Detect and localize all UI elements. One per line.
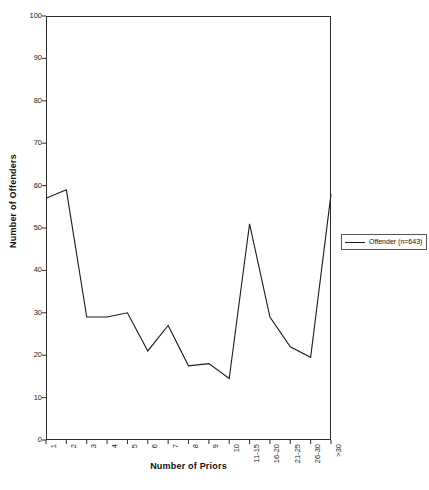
y-tick-label: 30 — [16, 309, 42, 317]
x-tick-label: 2 — [70, 444, 78, 448]
y-tick-label: 20 — [16, 351, 42, 359]
chart-legend: Offender (n=643) — [341, 234, 427, 250]
x-axis-title: Number of Priors — [46, 461, 331, 471]
data-series-line-offender — [46, 190, 331, 379]
y-axis-ticks — [42, 16, 46, 440]
x-tick-label: 7 — [172, 444, 180, 448]
x-tick-label: 10 — [233, 444, 241, 452]
x-tick-label: 5 — [131, 444, 139, 448]
x-tick-label: 1 — [50, 444, 58, 448]
x-tick-label: 3 — [90, 444, 98, 448]
y-tick-label: 50 — [16, 224, 42, 232]
legend-entry-label: Offender (n=643) — [369, 238, 422, 246]
legend-line-swatch — [345, 242, 365, 243]
chart-figure: 0102030405060708090100 Number of Offende… — [0, 0, 429, 490]
y-tick-label: 70 — [16, 139, 42, 147]
x-tick-label: 9 — [212, 444, 220, 448]
y-tick-label: 10 — [16, 394, 42, 402]
x-tick-label: 6 — [151, 444, 159, 448]
y-axis-title: Number of Offenders — [8, 141, 18, 261]
x-tick-label: 11-15 — [253, 444, 261, 463]
y-tick-label: 60 — [16, 182, 42, 190]
x-tick-label: >30 — [335, 444, 343, 457]
x-tick-label: 8 — [192, 444, 200, 448]
y-tick-label: 100 — [16, 12, 42, 20]
y-tick-label: 90 — [16, 54, 42, 62]
x-tick-label: 4 — [111, 444, 119, 448]
y-tick-label: 40 — [16, 266, 42, 274]
y-tick-label: 80 — [16, 97, 42, 105]
